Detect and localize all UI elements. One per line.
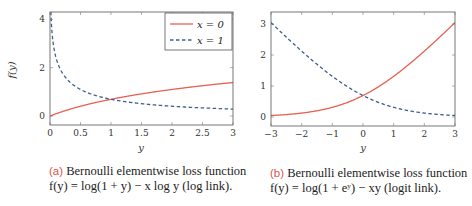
x-tick-label: −2 bbox=[295, 129, 308, 139]
series-line-x0 bbox=[271, 23, 455, 116]
y-tick-label: 2 bbox=[39, 63, 45, 73]
plot-area-b bbox=[271, 23, 455, 116]
x-tick-label: 3 bbox=[452, 129, 458, 139]
axis-ticks-b: −3−2−101230123 bbox=[260, 12, 458, 139]
caption-a-line1: Bernoulli elementwise loss function bbox=[66, 164, 246, 178]
plot-frame-b bbox=[271, 12, 455, 126]
caption-b-formula: f(y) = log(1 + eʸ) − xy (logit link). bbox=[270, 181, 467, 196]
caption-tag-a: (a) bbox=[49, 165, 63, 177]
x-tick-label: 1.5 bbox=[134, 128, 149, 138]
x-tick-label: 0.5 bbox=[73, 128, 88, 138]
legend: x = 0 x = 1 bbox=[165, 13, 232, 50]
x-axis-label-b: y bbox=[359, 142, 366, 153]
caption-a-formula: f(y) = log(1 + y) − x log y (log link). bbox=[49, 179, 246, 194]
x-tick-label: −3 bbox=[264, 129, 278, 139]
caption-a: (a) Bernoulli elementwise loss function … bbox=[49, 164, 246, 194]
x-tick-label: 0 bbox=[360, 129, 366, 139]
caption-tag-b: (b) bbox=[270, 167, 284, 179]
y-axis-label-a: f(y) bbox=[6, 61, 17, 79]
legend-label-x1: x = 1 bbox=[197, 35, 224, 46]
series-line-x1 bbox=[271, 23, 455, 116]
caption-b: (b) Bernoulli elementwise loss function … bbox=[270, 166, 467, 196]
x-tick-label: 3 bbox=[230, 128, 236, 138]
x-tick-label: 1 bbox=[391, 129, 397, 139]
x-tick-label: 0 bbox=[47, 128, 53, 138]
x-tick-label: 2.5 bbox=[195, 128, 210, 138]
x-tick-label: 1 bbox=[108, 128, 114, 138]
y-tick-label: 4 bbox=[39, 14, 45, 24]
legend-label-x0: x = 0 bbox=[197, 19, 224, 30]
caption-b-line1: Bernoulli elementwise loss function bbox=[287, 166, 467, 180]
x-axis-label-a: y bbox=[137, 142, 144, 153]
y-tick-label: 0 bbox=[260, 112, 266, 122]
x-tick-label: −1 bbox=[326, 129, 339, 139]
x-tick-label: 2 bbox=[421, 129, 427, 139]
y-tick-label: 1 bbox=[260, 81, 266, 91]
chart-panel-b: −3−2−101230123 y bbox=[260, 12, 458, 153]
chart-panel-a: 00.511.522.53024 y f(y) x = 0 x = 1 bbox=[6, 0, 236, 153]
y-tick-label: 3 bbox=[260, 19, 266, 29]
y-tick-label: 2 bbox=[260, 50, 266, 60]
y-tick-label: 0 bbox=[39, 111, 45, 121]
x-tick-label: 2 bbox=[169, 128, 175, 138]
